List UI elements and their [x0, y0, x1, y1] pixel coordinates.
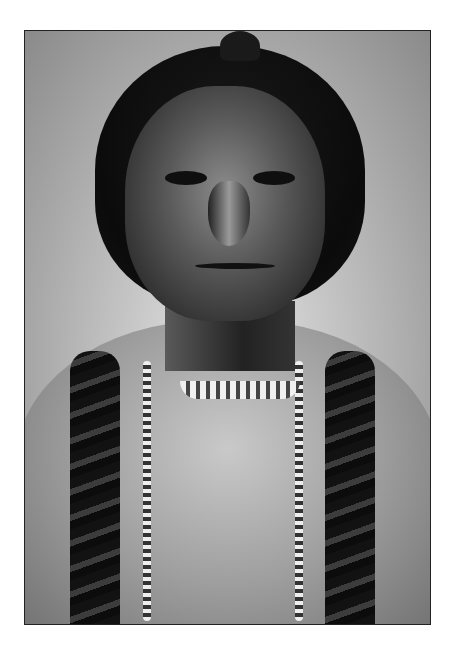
right-braid — [325, 351, 375, 625]
bead-necklace-right — [295, 361, 303, 621]
bead-necklace-left — [143, 361, 151, 621]
topknot — [220, 31, 260, 61]
left-eye — [165, 171, 207, 185]
mouth — [195, 263, 275, 269]
left-braid — [70, 351, 120, 625]
nose — [208, 181, 250, 246]
choker-necklace — [180, 381, 300, 399]
right-eye — [253, 171, 295, 185]
portrait-photo — [24, 30, 431, 625]
